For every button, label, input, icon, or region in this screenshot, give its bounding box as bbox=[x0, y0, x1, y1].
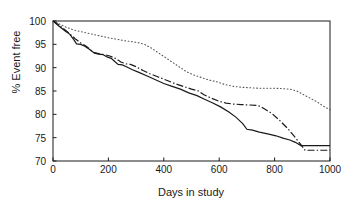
x-tick-label-600: 600 bbox=[211, 164, 228, 175]
x-tick-label-1000: 1000 bbox=[319, 164, 341, 175]
plot-canvas bbox=[0, 0, 349, 217]
y-tick-label-90: 90 bbox=[20, 62, 46, 73]
series-line-dotted bbox=[53, 21, 330, 110]
y-tick-label-95: 95 bbox=[20, 39, 46, 50]
x-tick-label-0: 0 bbox=[50, 164, 56, 175]
series-line-dash-dot bbox=[53, 21, 330, 150]
y-tick-label-75: 75 bbox=[20, 132, 46, 143]
y-tick-label-100: 100 bbox=[20, 16, 46, 27]
x-axis-label: Days in study bbox=[111, 186, 271, 198]
x-axis-ticks bbox=[53, 158, 330, 162]
y-tick-label-70: 70 bbox=[20, 156, 46, 167]
y-axis-ticks bbox=[53, 21, 57, 161]
y-tick-label-80: 80 bbox=[20, 109, 46, 120]
y-tick-label-85: 85 bbox=[20, 86, 46, 97]
x-tick-label-800: 800 bbox=[266, 164, 283, 175]
x-tick-label-200: 200 bbox=[100, 164, 117, 175]
x-tick-label-400: 400 bbox=[155, 164, 172, 175]
survival-curve-figure: % Event free Days in study 100 95 90 85 … bbox=[0, 0, 349, 217]
series-line-solid bbox=[53, 21, 330, 146]
